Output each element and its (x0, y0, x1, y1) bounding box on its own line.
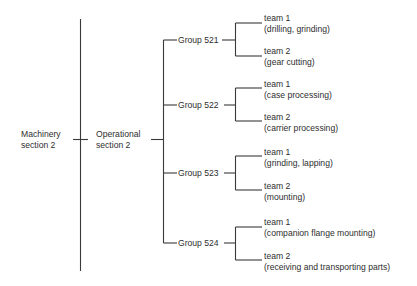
group-node-524: Group 524 (178, 238, 219, 249)
team-name: team 2 (264, 181, 305, 192)
team-node-522-1: team 1 (case processing) (264, 79, 332, 100)
team-task: (companion flange mounting) (264, 228, 375, 239)
group-node-523: Group 523 (178, 168, 219, 179)
team-name: team 1 (264, 147, 333, 158)
team-task: (mounting) (264, 192, 305, 203)
team-node-521-2: team 2 (gear cutting) (264, 46, 315, 67)
team-task: (drilling, grinding) (264, 24, 330, 35)
team-node-522-2: team 2 (carrier processing) (264, 112, 338, 133)
team-task: (receiving and transporting parts) (264, 262, 390, 273)
org-chart: Machinery section 2 Operational section … (0, 0, 417, 286)
team-node-523-2: team 2 (mounting) (264, 181, 305, 202)
team-task: (carrier processing) (264, 123, 338, 134)
team-task: (case processing) (264, 90, 332, 101)
section-node: Operational section 2 (96, 129, 140, 150)
team-name: team 1 (264, 79, 332, 90)
team-node-524-1: team 1 (companion flange mounting) (264, 217, 375, 238)
team-name: team 1 (264, 217, 375, 228)
team-name: team 1 (264, 13, 330, 24)
team-task: (gear cutting) (264, 57, 315, 68)
group-node-521: Group 521 (178, 35, 219, 46)
team-name: team 2 (264, 112, 338, 123)
group-node-522: Group 522 (178, 100, 219, 111)
team-node-524-2: team 2 (receiving and transporting parts… (264, 251, 390, 272)
team-node-523-1: team 1 (grinding, lapping) (264, 147, 333, 168)
section-label-line2: section 2 (96, 140, 140, 151)
team-task: (grinding, lapping) (264, 158, 333, 169)
team-name: team 2 (264, 251, 390, 262)
root-label-line2: section 2 (21, 140, 61, 151)
team-node-521-1: team 1 (drilling, grinding) (264, 13, 330, 34)
root-label-line1: Machinery (21, 129, 61, 140)
section-label-line1: Operational (96, 129, 140, 140)
team-name: team 2 (264, 46, 315, 57)
root-node: Machinery section 2 (21, 129, 61, 150)
